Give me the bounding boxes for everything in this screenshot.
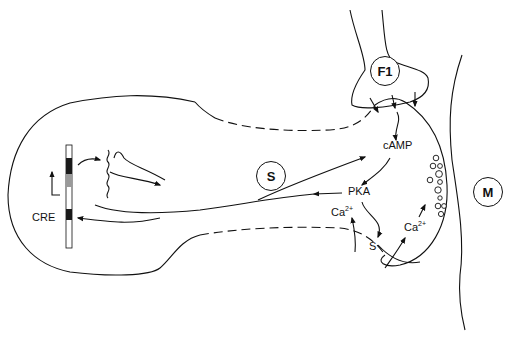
- motor-neuron-membrane: [450, 55, 465, 330]
- calcium-right-label: Ca2+: [404, 220, 426, 233]
- cre-label: CRE: [32, 212, 55, 223]
- axon-lower-dashed: [200, 227, 385, 255]
- mrna-squiggle: [107, 150, 109, 198]
- interneuron-f1-label: F1: [370, 56, 400, 86]
- motor-neuron-label: M: [473, 177, 503, 207]
- pka-label: PKA: [348, 186, 370, 197]
- axon-upper-solid: [195, 102, 215, 118]
- terminal-outline: [375, 98, 447, 265]
- axon-upper-dashed: [215, 105, 375, 131]
- synaptic-vesicles: [427, 155, 446, 216]
- s-channel-label: S: [369, 241, 376, 252]
- dna-strand: [66, 145, 72, 248]
- sensory-neuron-label: S: [256, 161, 286, 191]
- diagram-canvas: [0, 0, 508, 337]
- calcium-left-label: Ca2+: [331, 205, 353, 218]
- cell-body-outline: [8, 96, 200, 275]
- camp-label: cAMP: [383, 140, 412, 151]
